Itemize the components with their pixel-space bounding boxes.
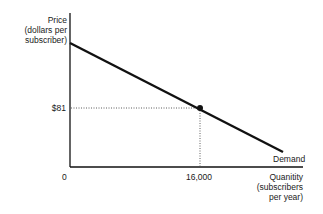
x-axis-label: Quanitity (subscribers per year) [240, 172, 303, 202]
x-label-line-2: (subscribers [240, 182, 303, 192]
y-label-line-2: (dollars per [8, 25, 67, 35]
x-tick-label: 16,000 [186, 172, 212, 182]
demand-curve [70, 43, 283, 152]
equilibrium-point [197, 105, 203, 111]
demand-curve-label: Demand [273, 154, 305, 164]
y-axis-label: Price (dollars per subscriber) [8, 15, 67, 45]
x-label-line-1: Quanitity [240, 172, 303, 182]
y-label-line-3: subscriber) [8, 35, 67, 45]
y-tick-label: $81 [30, 103, 66, 113]
y-label-line-1: Price [8, 15, 67, 25]
origin-label: 0 [62, 172, 67, 182]
x-label-line-3: per year) [240, 192, 303, 202]
